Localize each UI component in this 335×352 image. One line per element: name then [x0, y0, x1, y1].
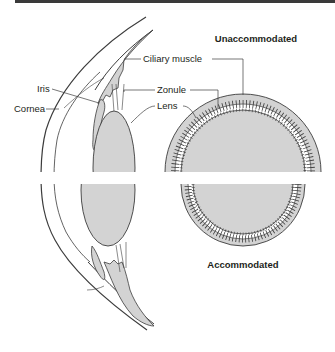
ciliary-muscle-shape	[98, 30, 153, 104]
title-accommodated: Accommodated	[207, 259, 278, 270]
title-unaccommodated: Unaccommodated	[215, 33, 298, 44]
label-cornea: Cornea	[14, 103, 46, 114]
label-lens: Lens	[157, 100, 178, 111]
label-iris: Iris	[37, 83, 50, 94]
eye-accommodation-diagram: Unaccommodated Accommodated Ciliary musc…	[0, 0, 335, 352]
label-ciliary-muscle: Ciliary muscle	[143, 53, 202, 64]
label-zonule: Zonule	[157, 84, 186, 95]
